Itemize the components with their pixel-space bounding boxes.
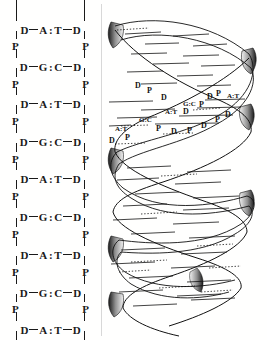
- helix-rungs-upper: [125, 32, 235, 86]
- phosphate-right: P: [82, 228, 89, 240]
- deoxyribose-right: D: [73, 61, 81, 73]
- phosphate-right: P: [82, 266, 89, 278]
- phosphate-left: P: [12, 115, 19, 127]
- deoxyribose-right: D: [73, 324, 81, 336]
- helix-phosphate-label: P: [199, 100, 204, 109]
- ladder-base-pair-row: DG:CD: [0, 59, 101, 75]
- deoxyribose-left: D: [20, 98, 28, 110]
- glycosidic-bond-right: [63, 329, 72, 330]
- glycosidic-bond-left: [29, 329, 38, 330]
- glycosidic-bond-left: [29, 141, 38, 142]
- deoxyribose-left: D: [20, 173, 28, 185]
- base-right: C: [54, 287, 62, 299]
- helix-phosphate-label: P: [215, 115, 220, 124]
- base-right: C: [54, 61, 62, 73]
- base-left: G: [39, 287, 48, 299]
- deoxyribose-right: D: [73, 98, 81, 110]
- hydrogen-bond-separator: :: [47, 61, 54, 73]
- ladder-base-pair-row: DA:TD: [0, 22, 101, 38]
- ladder-phosphate-row: PP: [0, 153, 101, 167]
- ladder-base-pair-row: DG:CD: [0, 285, 101, 301]
- dna-double-helix-diagram: PDPDDPDA:TG:CA:TG:CA:TPDPDPDPD: [101, 0, 267, 340]
- deoxyribose-left: D: [20, 249, 28, 261]
- phosphate-right: P: [82, 153, 89, 165]
- deoxyribose-right: D: [73, 136, 81, 148]
- helix-phosphate-label: P: [125, 133, 130, 142]
- glycosidic-bond-right: [63, 178, 72, 179]
- base-right: C: [54, 211, 62, 223]
- deoxyribose-left: D: [20, 136, 28, 148]
- helix-strand-back-2: [115, 35, 253, 298]
- phosphate-left: P: [12, 266, 19, 278]
- phosphate-right: P: [82, 303, 89, 315]
- deoxyribose-right: D: [73, 287, 81, 299]
- helix-deoxyribose-label: D: [135, 81, 141, 90]
- deoxyribose-left: D: [20, 61, 28, 73]
- phosphate-left: P: [12, 78, 19, 90]
- base-left: G: [39, 136, 48, 148]
- deoxyribose-left: D: [20, 24, 28, 36]
- helix-phosphate-label: P: [156, 124, 161, 133]
- glycosidic-bond-left: [29, 178, 38, 179]
- base-left: G: [39, 61, 48, 73]
- phosphate-right: P: [82, 115, 89, 127]
- deoxyribose-right: D: [73, 211, 81, 223]
- glycosidic-bond-right: [63, 292, 72, 293]
- helix-deoxyribose-label: D: [109, 136, 115, 145]
- base-right: T: [54, 173, 61, 185]
- helix-deoxyribose-label: D: [225, 110, 231, 119]
- base-left: A: [39, 24, 47, 36]
- helix-svg: PDPDDPDA:TG:CA:TG:CA:TPDPDPDPD: [101, 0, 267, 340]
- base-left: A: [39, 249, 47, 261]
- phosphate-left: P: [12, 303, 19, 315]
- helix-base-pair-label: A:T: [115, 125, 127, 133]
- phosphate-right: P: [82, 190, 89, 202]
- hydrogen-bond-separator: :: [47, 173, 54, 185]
- base-right: C: [54, 136, 62, 148]
- helix-base-pair-label: G:C: [139, 116, 152, 124]
- phosphate-left: P: [12, 40, 19, 52]
- hydrogen-bond-separator: :: [47, 287, 54, 299]
- base-left: G: [39, 211, 48, 223]
- base-right: T: [54, 249, 61, 261]
- base-left: A: [39, 173, 47, 185]
- base-right: T: [54, 324, 61, 336]
- ladder-base-pair-row: DA:TD: [0, 96, 101, 112]
- glycosidic-bond-right: [63, 29, 72, 30]
- glycosidic-bond-left: [29, 29, 38, 30]
- deoxyribose-right: D: [73, 24, 81, 36]
- ladder-phosphate-row: PP: [0, 115, 101, 129]
- base-right: T: [54, 98, 61, 110]
- phosphate-left: P: [12, 190, 19, 202]
- glycosidic-bond-left: [29, 254, 38, 255]
- dna-structure-figure: DA:TDDG:CDDA:TDDG:CDDA:TDDG:CDDA:TDDG:CD…: [0, 0, 267, 340]
- phosphate-left: P: [12, 228, 19, 240]
- glycosidic-bond-right: [63, 66, 72, 67]
- ladder-phosphate-row: PP: [0, 266, 101, 280]
- helix-phosphate-label: P: [216, 89, 221, 98]
- glycosidic-bond-right: [63, 141, 72, 142]
- helix-base-pair-label: A:T: [165, 108, 177, 116]
- ladder-phosphate-row: PP: [0, 303, 101, 317]
- ladder-phosphate-row: PP: [0, 228, 101, 242]
- ladder-base-pair-row: DA:TD: [0, 171, 101, 187]
- helix-phosphate-label: P: [187, 126, 192, 135]
- glycosidic-bond-right: [63, 103, 72, 104]
- deoxyribose-right: D: [73, 249, 81, 261]
- glycosidic-bond-right: [63, 254, 72, 255]
- helix-base-pair-label: A:T: [227, 92, 239, 100]
- hydrogen-bond-separator: :: [47, 249, 54, 261]
- glycosidic-bond-left: [29, 103, 38, 104]
- phosphate-left: P: [12, 153, 19, 165]
- helix-strand-back: [111, 21, 254, 287]
- phosphate-right: P: [82, 40, 89, 52]
- helix-deoxyribose-label: D: [183, 107, 189, 116]
- helix-phosphate-label: P: [147, 86, 152, 95]
- backbone-connector: [84, 0, 85, 21]
- helix-turn-shading: [108, 22, 256, 317]
- glycosidic-bond-left: [29, 66, 38, 67]
- ladder-base-pair-row: DG:CD: [0, 209, 101, 225]
- backbone-connector: [16, 0, 17, 21]
- phosphate-right: P: [82, 78, 89, 90]
- ladder-phosphate-row: PP: [0, 190, 101, 204]
